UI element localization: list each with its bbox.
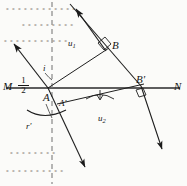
refracted-ray-from-a (48, 88, 85, 167)
label-b-prime: B' (136, 74, 145, 85)
wavefront-ab (48, 48, 109, 88)
label-n: N (174, 81, 181, 92)
label-velocity-u1: u1 (68, 39, 76, 50)
right-angle-marker-bp (136, 88, 146, 97)
label-m: M (3, 81, 12, 92)
incident-direction-arrow (76, 9, 106, 51)
velocity-u1-subscript: 1 (73, 42, 76, 49)
label-angle-i: i (43, 64, 46, 73)
wavefront-ap-bp (57, 84, 144, 104)
label-b: B (112, 40, 119, 51)
fraction-numerator: 1 (18, 76, 29, 85)
label-angle-r-prime: r' (26, 122, 31, 131)
label-a: A (43, 92, 50, 103)
refraction-diagram: • • • • • • • • • • • • • • • • • • • • … (0, 0, 187, 186)
label-a-prime: A' (59, 99, 66, 108)
fraction-one-over-two: 1 2 (18, 76, 29, 95)
fraction-denominator: 2 (18, 86, 29, 95)
angle-i-tick (45, 73, 52, 80)
velocity-u2-subscript: 2 (103, 117, 106, 124)
label-velocity-u2: u2 (98, 114, 106, 125)
